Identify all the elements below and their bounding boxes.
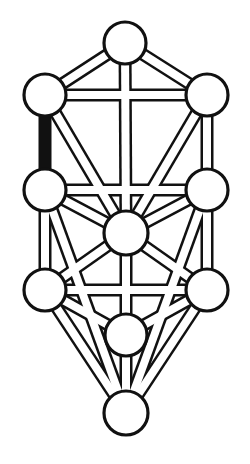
sephira-node-chesed[interactable] [186, 169, 228, 211]
tree-of-life-diagram [0, 0, 250, 464]
sephira-node-malkuth[interactable] [104, 391, 148, 435]
sephira-node-hod[interactable] [24, 269, 66, 311]
sephira-node-binah[interactable] [24, 74, 66, 116]
sephira-node-kether[interactable] [104, 22, 146, 64]
sephira-node-chokmah[interactable] [186, 74, 228, 116]
sephira-node-tiphereth[interactable] [104, 211, 148, 255]
tree-path-fill [125, 43, 126, 233]
sephira-node-geburah[interactable] [24, 169, 66, 211]
sephira-node-netzach[interactable] [186, 269, 228, 311]
sephira-node-yesod[interactable] [105, 314, 147, 356]
